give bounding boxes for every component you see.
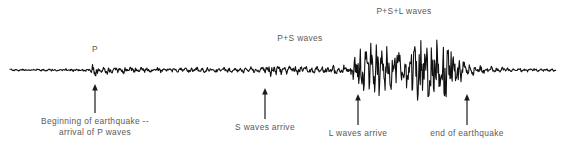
arrow-head-icon [262,88,268,95]
arrow-end-of-earthquake [464,94,470,125]
annotation-label-beginning-of-earthquake: Beginning of earthquake --arrival of P w… [20,116,170,138]
annotation-line: arrival of P waves [59,127,131,137]
annotation-label-l-waves-arrive: L waves arrive [329,128,388,139]
wave-label-p-s-waves: P+S waves [277,33,322,44]
arrow-l-waves-arrive [355,94,361,125]
annotation-line: S waves arrive [235,122,295,132]
arrow-s-waves-arrive [262,88,268,119]
annotation-line: end of earthquake [430,128,503,138]
arrow-head-icon [464,94,470,101]
annotation-line: L waves arrive [329,128,388,138]
arrow-head-icon [355,94,361,101]
seismogram-figure: PP+S wavesP+S+L waves Beginning of earth… [0,0,565,156]
annotation-line: Beginning of earthquake -- [41,116,149,126]
arrow-beginning-of-earthquake [92,84,98,113]
wave-label-p-s-l-waves: P+S+L waves [376,6,431,17]
annotation-label-s-waves-arrive: S waves arrive [235,122,295,133]
wave-label-p-wave: P [92,44,98,55]
annotation-label-end-of-earthquake: end of earthquake [430,128,503,139]
arrow-head-icon [92,84,98,91]
